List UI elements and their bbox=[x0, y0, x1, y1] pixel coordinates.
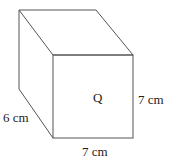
height-label: 7 cm bbox=[138, 92, 164, 107]
width-label: 7 cm bbox=[82, 144, 108, 159]
top-face bbox=[19, 10, 133, 55]
cuboid-diagram: Q 7 cm 6 cm 7 cm bbox=[0, 0, 169, 163]
depth-label: 6 cm bbox=[3, 110, 29, 125]
face-label-q: Q bbox=[93, 90, 103, 105]
cuboid-edges bbox=[19, 10, 133, 138]
